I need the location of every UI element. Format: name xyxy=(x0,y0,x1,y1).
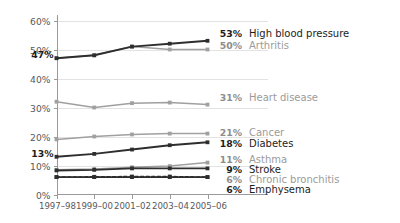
data-point-emphysema xyxy=(55,175,59,179)
data-point-emphysema xyxy=(168,175,172,179)
data-point-emphysema xyxy=(206,175,210,179)
data-point-stroke xyxy=(206,167,210,171)
data-point-emphysema xyxy=(92,175,96,179)
y-tick-label: 60% xyxy=(30,16,51,27)
end-value-heart-disease: 31% xyxy=(220,92,243,103)
data-point-high-blood-pressure xyxy=(168,42,172,46)
data-point-high-blood-pressure xyxy=(55,56,59,60)
y-tick-label: 30% xyxy=(30,103,51,114)
data-point-stroke xyxy=(92,168,96,172)
data-point-heart-disease xyxy=(92,106,96,110)
x-tick-label: 2001–02 xyxy=(114,201,151,211)
data-point-stroke xyxy=(168,167,172,171)
end-value-high-blood-pressure: 53% xyxy=(220,28,243,39)
data-point-diabetes xyxy=(168,143,172,147)
data-point-stroke xyxy=(55,169,59,173)
x-tick-label: 1999–00 xyxy=(76,201,113,211)
series-label-diabetes: Diabetes xyxy=(249,138,293,149)
series-label-arthritis: Arthritis xyxy=(249,40,289,51)
data-point-high-blood-pressure xyxy=(206,39,210,43)
data-point-arthritis xyxy=(168,48,172,52)
end-value-diabetes: 18% xyxy=(220,138,243,149)
x-tick-label: 2003–04 xyxy=(152,201,189,211)
data-point-emphysema xyxy=(130,175,134,179)
end-value-cancer: 21% xyxy=(220,127,243,138)
start-value-1: 13% xyxy=(31,148,54,159)
data-point-heart-disease xyxy=(55,100,59,104)
data-point-cancer xyxy=(130,133,134,137)
data-point-cancer xyxy=(168,132,172,136)
data-point-diabetes xyxy=(55,155,59,159)
x-tick-label: 2005–06 xyxy=(190,201,227,211)
data-point-stroke xyxy=(130,167,134,171)
data-point-cancer xyxy=(55,138,59,142)
data-point-diabetes xyxy=(130,148,134,152)
data-point-heart-disease xyxy=(168,101,172,105)
y-tick-label: 40% xyxy=(30,74,51,85)
data-point-cancer xyxy=(92,135,96,139)
data-point-cancer xyxy=(206,132,210,136)
data-point-heart-disease xyxy=(130,101,134,105)
data-point-asthma xyxy=(206,161,210,165)
data-point-diabetes xyxy=(206,140,210,144)
end-value-emphysema: 6% xyxy=(226,184,242,195)
series-label-heart-disease: Heart disease xyxy=(249,92,318,103)
start-value-0: 47% xyxy=(31,49,54,60)
series-label-cancer: Cancer xyxy=(249,127,285,138)
series-label-emphysema: Emphysema xyxy=(249,184,311,195)
y-tick-label: 20% xyxy=(30,132,51,143)
y-tick-label: 0% xyxy=(36,190,51,201)
data-point-heart-disease xyxy=(206,103,210,107)
y-tick-label: 10% xyxy=(30,161,51,172)
data-point-arthritis xyxy=(206,48,210,52)
x-tick-label: 1997–98 xyxy=(39,201,76,211)
data-point-high-blood-pressure xyxy=(130,45,134,49)
chart-container: 0%10%20%30%40%50%60%1997–981999–002001–0… xyxy=(0,0,400,223)
series-label-high-blood-pressure: High blood pressure xyxy=(249,28,349,39)
data-point-diabetes xyxy=(92,152,96,156)
end-value-arthritis: 50% xyxy=(220,40,243,51)
line-chart: 0%10%20%30%40%50%60%1997–981999–002001–0… xyxy=(0,0,400,223)
data-point-high-blood-pressure xyxy=(92,53,96,57)
